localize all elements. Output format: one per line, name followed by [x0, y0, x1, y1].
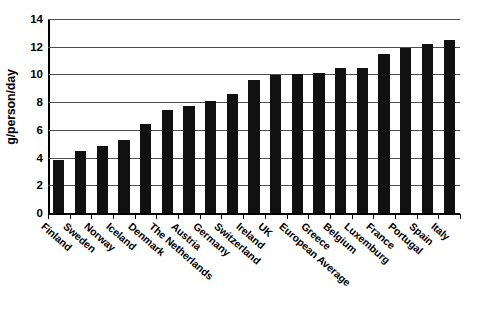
- bar[interactable]: [313, 73, 324, 213]
- bar[interactable]: [183, 106, 194, 213]
- bar-chart: g/person/day 02468101214 FinlandSwedenNo…: [0, 0, 481, 316]
- y-tick-label-14: 14: [30, 13, 43, 25]
- bar[interactable]: [227, 94, 238, 213]
- bars-layer: [48, 19, 460, 213]
- x-tick: [265, 214, 266, 219]
- plot-area: [48, 19, 460, 213]
- bar[interactable]: [378, 54, 389, 213]
- x-tick: [221, 214, 222, 219]
- x-tick: [113, 214, 114, 219]
- y-tick-label-0: 0: [37, 207, 43, 219]
- x-tick: [460, 214, 461, 219]
- x-tick: [352, 214, 353, 219]
- x-tick: [178, 214, 179, 219]
- bar[interactable]: [97, 146, 108, 213]
- y-tick-label-2: 2: [37, 179, 43, 191]
- bar[interactable]: [162, 110, 173, 213]
- x-tick: [373, 214, 374, 219]
- x-tick: [330, 214, 331, 219]
- x-tick: [287, 214, 288, 219]
- x-tick: [135, 214, 136, 219]
- x-tick: [48, 214, 49, 219]
- y-axis-title-text: g/person/day: [4, 69, 18, 144]
- x-tick: [243, 214, 244, 219]
- x-tick: [395, 214, 396, 219]
- bar[interactable]: [444, 40, 455, 213]
- bar[interactable]: [75, 151, 86, 213]
- x-tick: [200, 214, 201, 219]
- x-tick: [308, 214, 309, 219]
- bar[interactable]: [270, 75, 281, 213]
- x-tick: [438, 214, 439, 219]
- bar[interactable]: [400, 48, 411, 213]
- x-tick: [417, 214, 418, 219]
- bar[interactable]: [422, 44, 433, 213]
- x-axis-tick-labels: FinlandSwedenNorwayIcelandDenmarkThe Net…: [0, 220, 481, 316]
- bar[interactable]: [248, 80, 259, 213]
- bar[interactable]: [357, 68, 368, 214]
- y-tick-label-10: 10: [30, 68, 43, 80]
- bar[interactable]: [118, 140, 129, 213]
- bar[interactable]: [292, 74, 303, 213]
- bar[interactable]: [140, 124, 151, 213]
- x-tick: [91, 214, 92, 219]
- bar[interactable]: [53, 160, 64, 213]
- x-tick: [70, 214, 71, 219]
- y-tick-label-6: 6: [37, 124, 43, 136]
- y-tick-label-4: 4: [37, 152, 43, 164]
- bar[interactable]: [335, 68, 346, 213]
- bar[interactable]: [205, 101, 216, 213]
- y-tick-label-8: 8: [37, 96, 43, 108]
- x-tick: [156, 214, 157, 219]
- y-axis-title: g/person/day: [0, 0, 22, 213]
- y-tick-label-12: 12: [30, 41, 43, 53]
